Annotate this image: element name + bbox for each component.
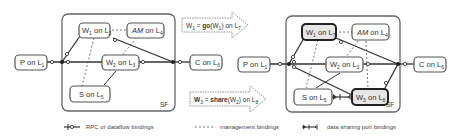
svg-text:P on L1: P on L1 bbox=[243, 60, 268, 70]
left-node-w1: W1 on L2 bbox=[79, 23, 112, 38]
legend-data-sharing-binding: data sharing port bindings bbox=[302, 124, 396, 130]
svg-text:AM on L4: AM on L4 bbox=[356, 28, 388, 38]
svg-text:S on L5: S on L5 bbox=[79, 90, 104, 100]
transformation-go: W1 = go(W1) on L7 bbox=[182, 12, 248, 38]
svg-text:P on L1: P on L1 bbox=[20, 58, 45, 68]
svg-text:data sharing port bindings: data sharing port bindings bbox=[327, 124, 396, 130]
right-node-s: S on L5 bbox=[294, 89, 332, 105]
right-node-w2: W2 on L3 bbox=[326, 57, 363, 72]
right-node-am: AM on L4 bbox=[352, 24, 389, 40]
transformation-share: W3 = share(W2) on L8 bbox=[190, 86, 266, 112]
svg-text:AM on L4: AM on L4 bbox=[131, 26, 163, 36]
left-node-am: AM on L4 bbox=[127, 23, 164, 38]
svg-text:W1 on L2: W1 on L2 bbox=[82, 26, 112, 36]
right-node-w1: W1 on L7 bbox=[302, 24, 336, 40]
legend: RPC or dataflow bindings management bind… bbox=[64, 124, 396, 130]
right-node-c: C on L6 bbox=[414, 57, 446, 72]
left-sf-label: SF bbox=[160, 101, 168, 108]
svg-text:S on L5: S on L5 bbox=[302, 93, 327, 103]
diagram-canvas: SF P on L1 W1 on L2 AM on L4 bbox=[0, 0, 463, 140]
svg-text:W2 on L3: W2 on L3 bbox=[106, 58, 136, 68]
left-node-p: P on L1 bbox=[15, 55, 47, 70]
right-panel: SF P on L1 bbox=[238, 16, 446, 112]
svg-text:management bindings: management bindings bbox=[220, 124, 279, 130]
svg-text:C on L6: C on L6 bbox=[195, 58, 220, 68]
svg-text:W2 on L3: W2 on L3 bbox=[330, 60, 360, 70]
left-node-w2: W2 on L3 bbox=[102, 55, 139, 70]
left-node-s: S on L5 bbox=[70, 86, 110, 102]
left-node-c: C on L6 bbox=[190, 55, 222, 70]
svg-text:W1 on L7: W1 on L7 bbox=[306, 28, 336, 38]
svg-text:W3 on L8: W3 on L8 bbox=[356, 93, 386, 103]
svg-text:RPC or dataflow bindings: RPC or dataflow bindings bbox=[86, 124, 154, 130]
legend-management-binding: management bindings bbox=[195, 124, 279, 130]
right-node-w3: W3 on L8 bbox=[352, 89, 388, 105]
legend-rpc-binding: RPC or dataflow bindings bbox=[64, 124, 154, 130]
right-node-p: P on L1 bbox=[238, 57, 270, 72]
svg-text:C on L6: C on L6 bbox=[419, 60, 444, 70]
